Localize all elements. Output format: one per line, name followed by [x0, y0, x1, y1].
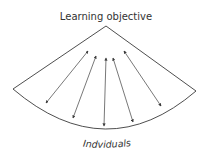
individuals-label-path: Indviduals [83, 137, 132, 150]
double-arrow-5 [124, 51, 161, 106]
double-arrow-3 [104, 58, 106, 126]
individuals-label: Indviduals [83, 137, 132, 150]
arrows-group [46, 51, 161, 126]
learning-objective-label: Learning objective [60, 11, 152, 22]
learning-fan-diagram: Learning objective Indviduals [0, 0, 209, 157]
double-arrow-4 [113, 58, 133, 122]
